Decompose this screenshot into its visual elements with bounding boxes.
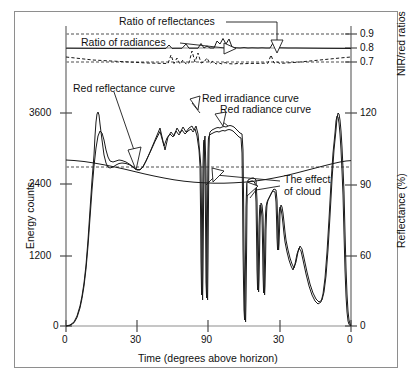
arrowhead-red-reflectance-curve bbox=[128, 147, 141, 170]
arrowhead-ratio-of-radiances bbox=[224, 43, 236, 54]
annotation-effect-of-cloud-line1: The effect bbox=[284, 174, 331, 186]
y-axis-left-title: Energy counts bbox=[24, 182, 36, 249]
x-tick-90: 90 bbox=[201, 334, 212, 345]
y-right-tick-90: 90 bbox=[360, 179, 371, 190]
y-left-tick-1200: 1200 bbox=[29, 250, 51, 261]
figure-container: 3600 2400 1200 0 0.9 0.8 0.7 120 90 60 0… bbox=[0, 0, 413, 381]
x-tick-0-left: 0 bbox=[62, 334, 68, 345]
annotation-effect-of-cloud-line2: of cloud bbox=[284, 186, 321, 198]
y-left-tick-3600: 3600 bbox=[29, 107, 51, 118]
arrowhead-effect-of-cloud-a bbox=[212, 168, 224, 182]
y-axis-right-upper-title: NIR/red ratios bbox=[395, 11, 407, 76]
annotation-red-radiance-curve: Red radiance curve bbox=[220, 104, 311, 116]
y-left-tick-0: 0 bbox=[53, 320, 59, 331]
y-right-tick-0-9: 0.9 bbox=[360, 28, 374, 39]
arrowhead-ratio-of-reflectances bbox=[271, 40, 283, 53]
x-tick-30-right: 30 bbox=[273, 334, 284, 345]
annotation-ratio-of-reflectances: Ratio of reflectances bbox=[119, 16, 215, 28]
y-right-tick-0: 0 bbox=[360, 320, 366, 331]
y-axis-right-lower-title: Reflectance (%) bbox=[395, 173, 407, 248]
arrowhead-red-irradiance-curve bbox=[190, 96, 200, 110]
x-axis-title: Time (degrees above horizon) bbox=[138, 352, 278, 364]
leader-ratio-of-reflectances bbox=[226, 22, 277, 40]
y-right-tick-0-8: 0.8 bbox=[360, 42, 374, 53]
annotation-red-reflectance-curve: Red reflectance curve bbox=[73, 83, 175, 95]
y-right-tick-120: 120 bbox=[360, 107, 377, 118]
x-tick-0-right: 0 bbox=[347, 334, 353, 345]
y-right-tick-60: 60 bbox=[360, 250, 371, 261]
annotation-ratio-of-radiances: Ratio of radiances bbox=[81, 37, 166, 49]
x-tick-30-left: 30 bbox=[130, 334, 141, 345]
chart-plot-area bbox=[0, 0, 413, 381]
leader-red-reflectance-curve bbox=[114, 92, 135, 153]
y-right-tick-0-7: 0.7 bbox=[360, 56, 374, 67]
